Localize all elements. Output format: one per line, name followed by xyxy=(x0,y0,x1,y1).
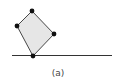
vertex-top xyxy=(30,9,35,14)
vertex-left xyxy=(15,24,20,29)
tilted-rectangle xyxy=(17,11,54,56)
vertex-right xyxy=(52,32,57,37)
figure-caption: (a) xyxy=(0,67,116,79)
vertex-bottom xyxy=(31,54,36,59)
